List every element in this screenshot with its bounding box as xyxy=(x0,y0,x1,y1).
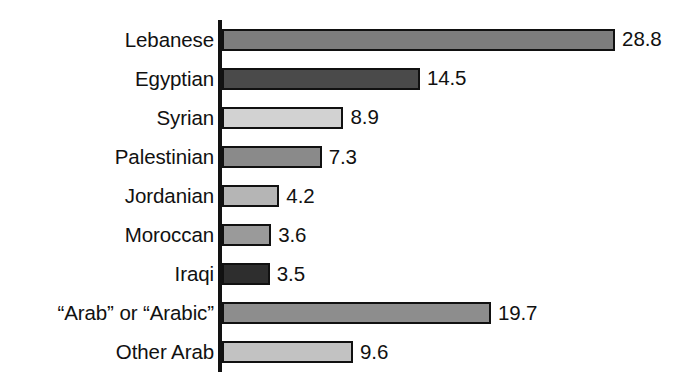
category-label: Other Arab xyxy=(116,342,214,363)
bar xyxy=(222,224,271,246)
bar-value-label: 3.5 xyxy=(277,264,305,285)
category-label: Moroccan xyxy=(125,225,214,246)
bar-chart: Lebanese28.8Egyptian14.5Syrian8.9Palesti… xyxy=(0,0,679,386)
bar-value-label: 3.6 xyxy=(278,225,306,246)
bar-with-value: 14.5 xyxy=(222,68,466,90)
bar-row: Moroccan3.6 xyxy=(0,215,679,254)
category-label: Jordanian xyxy=(125,186,214,207)
bar-value-label: 7.3 xyxy=(329,147,357,168)
bar xyxy=(222,185,279,207)
bar-row: Other Arab9.6 xyxy=(0,333,679,372)
bar xyxy=(222,107,343,129)
bar xyxy=(222,341,353,363)
bar-value-label: 14.5 xyxy=(427,68,467,89)
category-label: Syrian xyxy=(156,107,214,128)
bar-with-value: 4.2 xyxy=(222,185,315,207)
category-label: Egyptian xyxy=(135,68,214,89)
category-label: “Arab” or “Arabic” xyxy=(57,303,214,324)
category-label: Iraqi xyxy=(175,264,214,285)
bar-with-value: 9.6 xyxy=(222,341,388,363)
bar-row: Iraqi3.5 xyxy=(0,255,679,294)
bar-value-label: 19.7 xyxy=(498,303,538,324)
bar xyxy=(222,302,491,324)
bar xyxy=(222,146,322,168)
bar xyxy=(222,29,615,51)
bar-rows: Lebanese28.8Egyptian14.5Syrian8.9Palesti… xyxy=(0,20,679,372)
bar-with-value: 7.3 xyxy=(222,146,357,168)
bar-value-label: 9.6 xyxy=(360,342,388,363)
plot-area: Lebanese28.8Egyptian14.5Syrian8.9Palesti… xyxy=(0,0,679,386)
bar xyxy=(222,263,270,285)
bar-value-label: 28.8 xyxy=(622,29,662,50)
bar-with-value: 3.6 xyxy=(222,224,306,246)
bar-with-value: 28.8 xyxy=(222,29,662,51)
bar-row: “Arab” or “Arabic”19.7 xyxy=(0,294,679,333)
bar-value-label: 8.9 xyxy=(350,107,378,128)
category-label: Lebanese xyxy=(125,29,214,50)
bar xyxy=(222,68,420,90)
bar-with-value: 3.5 xyxy=(222,263,305,285)
bar-value-label: 4.2 xyxy=(286,186,314,207)
bar-row: Syrian8.9 xyxy=(0,98,679,137)
bar-with-value: 8.9 xyxy=(222,107,379,129)
bar-row: Palestinian7.3 xyxy=(0,137,679,176)
bar-with-value: 19.7 xyxy=(222,302,537,324)
bar-row: Lebanese28.8 xyxy=(0,20,679,59)
category-label: Palestinian xyxy=(115,147,214,168)
bar-row: Egyptian14.5 xyxy=(0,59,679,98)
bar-row: Jordanian4.2 xyxy=(0,176,679,215)
